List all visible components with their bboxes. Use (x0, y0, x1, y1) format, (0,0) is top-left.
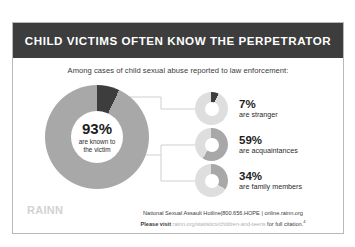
donut-family-center (205, 174, 219, 188)
percent-acquaintances: 59% (239, 134, 298, 146)
donut-stranger-center (205, 102, 219, 116)
donut-stranger (195, 92, 228, 125)
description-family: are family members (239, 183, 302, 191)
percent-stranger: 7% (239, 98, 278, 110)
label-stranger: 7% are stranger (239, 98, 278, 119)
header-banner: CHILD VICTIMS OFTEN KNOW THE PERPETRATOR (13, 23, 343, 58)
infographic-card: CHILD VICTIMS OFTEN KNOW THE PERPETRATOR… (12, 22, 344, 234)
main-description-line2: the victim (84, 146, 111, 153)
donut-acquaintances (195, 128, 228, 161)
description-acquaintances: are acquaintances (239, 147, 298, 155)
footer-citation-prefix: Please visit (141, 221, 173, 227)
main-description-line1: are known to (79, 138, 116, 145)
main-description: are known to the victim (79, 138, 116, 153)
donut-family (195, 164, 228, 197)
subtitle-text: Among cases of child sexual abuse report… (13, 66, 343, 75)
donut-acquaintances-center (205, 138, 219, 152)
footer-citation-link[interactable]: rainn.org/statistics/children-and-teens (173, 221, 266, 227)
footer-citation-suffix: for full citation. (266, 221, 304, 227)
breakdown-row-stranger: 7% are stranger (195, 92, 278, 125)
main-donut-chart: 93% are known to the victim (45, 85, 149, 189)
page-title: CHILD VICTIMS OFTEN KNOW THE PERPETRATOR (25, 34, 331, 47)
main-donut-center: 93% are known to the victim (71, 111, 123, 163)
breakdown-row-family: 34% are family members (195, 164, 302, 197)
footer-hotline: National Sexual Assault Hotline|800.656.… (109, 209, 337, 217)
breakdown-row-acquaintances: 59% are acquaintances (195, 128, 298, 161)
rainn-logo: RAINN (27, 204, 63, 216)
footer: National Sexual Assault Hotline|800.656.… (109, 209, 337, 228)
label-family: 34% are family members (239, 170, 302, 191)
main-percent-label: 93% (82, 121, 112, 136)
label-acquaintances: 59% are acquaintances (239, 134, 298, 155)
percent-family: 34% (239, 170, 302, 182)
description-stranger: are stranger (239, 111, 278, 119)
footer-footnote-marker: 4 (303, 219, 305, 224)
footer-citation: Please visit rainn.org/statistics/childr… (109, 219, 337, 228)
